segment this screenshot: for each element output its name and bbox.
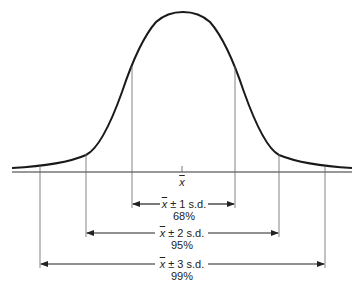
range-2sd-percent: 95% — [171, 239, 193, 251]
range-1sd-percent: 68% — [173, 210, 195, 222]
mean-label: x — [179, 176, 185, 188]
range-2sd-label: x ± 2 s.d. — [160, 227, 205, 239]
range-1sd-label: x ± 1 s.d. — [162, 198, 207, 210]
bell-curve — [12, 12, 352, 168]
range-3sd-percent: 99% — [171, 270, 193, 282]
range-3sd-label: x ± 3 s.d. — [160, 258, 205, 270]
